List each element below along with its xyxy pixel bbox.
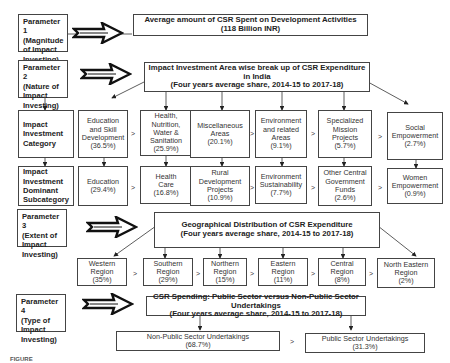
category-box: Specialized Mission Projects (5.7%)	[318, 110, 372, 158]
greater-than-sign: >	[131, 184, 135, 191]
cell-value: (68.7%)	[185, 341, 210, 349]
parameter-4-box: Parameter 4 (Type of Impact Investing)	[16, 294, 66, 332]
subcategory-box: Women Empowerment (0.9%)	[387, 168, 443, 204]
row-label-text: Investment	[23, 129, 63, 138]
greater-than-sign: >	[131, 130, 135, 137]
cell-value: (35%)	[92, 276, 111, 284]
greater-than-sign: >	[250, 130, 254, 137]
cell-value: (9.1%)	[270, 142, 291, 150]
row-label-text: Dominant	[23, 186, 58, 195]
cell-value: (2.6%)	[334, 194, 355, 202]
greater-than-sign: >	[311, 130, 315, 137]
sector-box: Public Sector Undertakings (31.3%)	[305, 333, 425, 353]
parameter-1-desc: (Magnitude	[23, 36, 64, 45]
subcategory-box: Education (29.4%)	[78, 166, 128, 206]
row-label-text: Subcategory	[23, 195, 69, 204]
region-box: Western Region (35%)	[77, 258, 127, 286]
cell-value: (15%)	[215, 276, 234, 284]
region-box: Northern Region (15%)	[203, 258, 247, 286]
region-box: North Eastern Region (2%)	[377, 258, 435, 288]
cell-value: (31.3%)	[352, 343, 377, 351]
cell-value: (2%)	[398, 277, 413, 285]
cell-value: (8%)	[334, 276, 349, 284]
greater-than-sign: >	[378, 133, 382, 140]
parameter-4-desc: Investing)	[21, 335, 57, 344]
double-arrow-icon-4	[82, 293, 134, 315]
parameter-4-desc: Impact	[21, 325, 45, 334]
greater-than-sign: >	[290, 338, 294, 345]
subcategory-box: Rural Development Projects (10.9%)	[190, 166, 250, 206]
category-row-label: Impact Investment Category	[18, 110, 74, 158]
row-label-text: Impact	[23, 120, 47, 129]
region-box: Central Region (8%)	[318, 258, 366, 286]
category-box: Miscellaneous Areas (20.1%)	[190, 110, 250, 158]
greater-than-sign: >	[311, 184, 315, 191]
p4-title: CSR Spending: Public Sector versus Non-P…	[147, 293, 365, 311]
double-arrow-icon-1	[72, 22, 124, 44]
parameter-4-label: Parameter 4	[21, 297, 61, 316]
category-box: Environment and related Areas (9.1%)	[255, 110, 307, 158]
parameter-2-box: Parameter 2 (Nature of Impact Investing)	[18, 60, 68, 98]
cell-value: (29%)	[158, 276, 177, 284]
p3-title-box: Geographical Distribution of CSR Expendi…	[154, 212, 380, 248]
p1-subtitle: (118 Billion INR)	[221, 25, 280, 34]
category-box: Education and Skill Development (36.5%)	[78, 110, 128, 158]
greater-than-sign: >	[378, 184, 382, 191]
subcategory-box: Environment Sustainability (7.7%)	[255, 166, 307, 204]
parameter-3-desc: (Extent of	[22, 231, 57, 240]
cell-value: (7.7%)	[270, 189, 291, 197]
p2-title: Impact Investment Area wise break up of …	[145, 64, 369, 82]
double-arrow-icon-3	[86, 216, 138, 238]
cell-value: (0.9%)	[404, 190, 425, 198]
region-box: Southern Region (29%)	[143, 258, 193, 286]
parameter-1-box: Parameter 1 (Magnitude of Impact Investi…	[18, 14, 68, 52]
parameter-2-desc: Investing)	[23, 101, 59, 110]
row-label-text: Category	[23, 139, 56, 148]
row-label-text: Investment	[23, 177, 63, 186]
parameter-4-desc: (Type of	[21, 316, 50, 325]
cell-value: (11%)	[274, 276, 293, 284]
subcategory-box: Health Care (16.8%)	[140, 166, 192, 204]
cell-value: (5.7%)	[334, 142, 355, 150]
p2-title-box: Impact Investment Area wise break up of …	[144, 62, 370, 92]
parameter-1-label: Parameter 1	[23, 17, 63, 36]
parameter-2-desc: (Nature of	[23, 82, 59, 91]
greater-than-sign: >	[196, 270, 200, 277]
p3-subtitle: (Four years average share, 2014-15 to 20…	[181, 230, 354, 239]
parameter-1-desc: of Impact	[23, 45, 57, 54]
cell-value: (2.7%)	[404, 140, 425, 148]
double-arrow-icon-2	[80, 63, 132, 85]
subcategory-box: Other Central Government Funds (2.6%)	[318, 166, 372, 206]
row-label-text: Impact	[23, 167, 47, 176]
greater-than-sign: >	[250, 270, 254, 277]
p1-title-box: Average amount of CSR Spent on Developme…	[133, 14, 368, 36]
greater-than-sign: >	[369, 270, 373, 277]
greater-than-sign: >	[311, 270, 315, 277]
p4-title-box: CSR Spending: Public Sector versus Non-P…	[146, 296, 366, 316]
subcategory-row-label: Impact Investment Dominant Subcategory	[18, 166, 74, 206]
parameter-3-desc: Investing)	[22, 250, 58, 259]
cell-value: (10.9%)	[207, 194, 232, 202]
figure-caption: FIGURE	[10, 356, 33, 362]
parameter-3-desc: Impact	[22, 240, 46, 249]
category-box: Social Empowerment (2.7%)	[387, 112, 443, 160]
sector-box: Non-Public Sector Undertakings (68.7%)	[116, 331, 280, 351]
greater-than-sign: >	[133, 270, 137, 277]
cell-value: (25.9%)	[153, 145, 178, 153]
parameter-3-box: Parameter 3 (Extent of Impact Investing)	[17, 209, 67, 247]
p4-subtitle: (Four years average share, 2014-15 to 20…	[170, 310, 343, 319]
parameter-2-label: Parameter 2	[23, 63, 63, 82]
p2-subtitle: (Four years average share, 2014-15 to 20…	[171, 81, 344, 90]
region-box: Eastern Region (11%)	[258, 258, 308, 286]
cell-value: (29.4%)	[90, 186, 115, 194]
parameter-3-label: Parameter 3	[22, 212, 62, 231]
parameter-2-desc: Impact	[23, 91, 47, 100]
cell-value: (20.1%)	[207, 138, 232, 146]
cell-value: (36.5%)	[90, 142, 115, 150]
category-box: Health, Nutrition, Water & Sanitation (2…	[140, 110, 192, 156]
cell-value: (16.8%)	[153, 189, 178, 197]
greater-than-sign: >	[250, 184, 254, 191]
